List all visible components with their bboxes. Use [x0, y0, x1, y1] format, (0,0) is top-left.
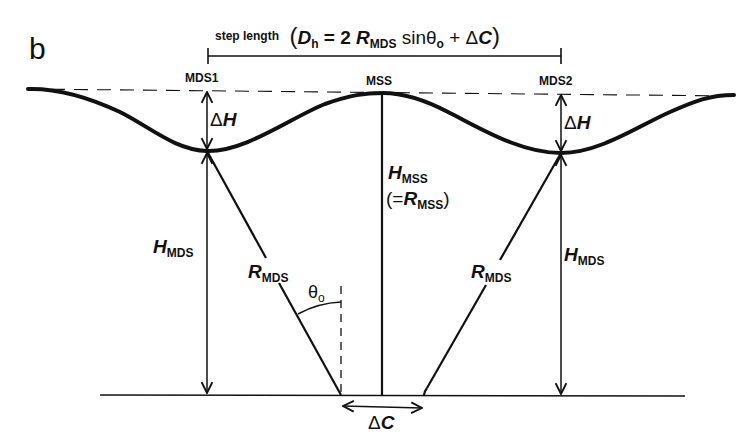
- r-mss-close: ): [443, 188, 449, 209]
- r-mds-left-label: RMDS: [248, 262, 288, 281]
- r-mss-sub: MSS: [417, 198, 443, 212]
- ground-baseline: [100, 395, 685, 396]
- delta-h-right-label: ΔH: [564, 113, 590, 132]
- step-length-formula: (Dh = 2 RMDS sinθo + ΔC): [289, 27, 500, 48]
- delta-c-label: ΔC: [368, 413, 394, 432]
- r-symbol: R: [471, 261, 485, 282]
- formula-plus-delta: + Δ: [444, 27, 478, 48]
- h-symbol: H: [564, 244, 578, 265]
- formula-r: R: [356, 27, 370, 48]
- r-mss-label: (=RMSS): [386, 189, 450, 208]
- delta-symbol: Δ: [564, 112, 577, 133]
- h-symbol: H: [577, 112, 591, 133]
- gait-geometry-diagram: b step length (Dh = 2 RMDS sinθo + ΔC) M…: [0, 0, 752, 444]
- formula-sin-sub: o: [437, 37, 444, 51]
- r-mds-right-label: RMDS: [471, 262, 511, 281]
- formula-d: D: [297, 27, 311, 48]
- h-mss-sub: MSS: [402, 172, 428, 186]
- mds2-label: MDS2: [539, 75, 572, 87]
- h-mss-label: HMSS: [388, 163, 428, 182]
- r-mds-sub: MDS: [262, 271, 289, 285]
- delta-c-arrow: [343, 406, 422, 408]
- delta-symbol: Δ: [210, 109, 223, 130]
- formula-sin: sinθ: [396, 27, 436, 48]
- theta-sub: o: [318, 291, 325, 305]
- h-mds-sub: MDS: [167, 246, 194, 260]
- step-length-label: step length: [215, 29, 279, 43]
- h-mds-sub: MDS: [578, 254, 605, 268]
- diagram-graphics: [0, 0, 752, 444]
- h-symbol: H: [223, 109, 237, 130]
- formula-r-sub: MDS: [370, 37, 397, 51]
- theta-label: θo: [308, 283, 325, 301]
- h-mds-left-label: HMDS: [153, 237, 193, 256]
- mds1-label: MDS1: [185, 72, 218, 84]
- r-symbol: R: [403, 188, 417, 209]
- formula-close-paren: ): [492, 22, 500, 49]
- h-symbol: H: [388, 162, 402, 183]
- mss-label: MSS: [366, 75, 392, 87]
- step-length-title: step length (Dh = 2 RMDS sinθo + ΔC): [215, 24, 500, 48]
- r-symbol: R: [248, 261, 262, 282]
- c-symbol: C: [381, 412, 395, 433]
- formula-c: C: [478, 27, 492, 48]
- delta-h-left-label: ΔH: [210, 110, 236, 129]
- r-mss-open: (=: [386, 188, 403, 209]
- theta-symbol: θ: [308, 282, 318, 302]
- r-mds-sub: MDS: [485, 271, 512, 285]
- h-mds-right-label: HMDS: [564, 245, 604, 264]
- panel-label: b: [29, 34, 46, 64]
- formula-d-sub: h: [311, 37, 318, 51]
- h-symbol: H: [153, 236, 167, 257]
- formula-eq: = 2: [319, 27, 351, 48]
- delta-symbol: Δ: [368, 412, 381, 433]
